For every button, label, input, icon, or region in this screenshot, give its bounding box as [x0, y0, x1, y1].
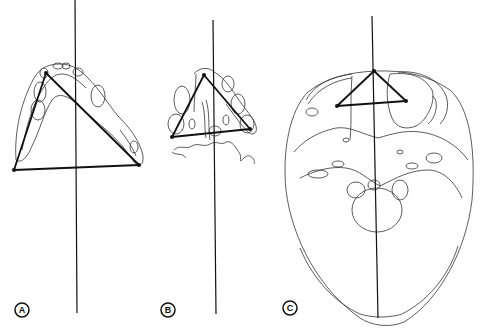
panel-c-orbit-right [387, 74, 433, 128]
panel-a-midline [75, 0, 77, 313]
panel-c-triangle [337, 71, 406, 106]
panel-c-foramen-magnum [352, 188, 402, 232]
panel-c: C [283, 16, 473, 325]
panel-a-label: A [19, 305, 26, 315]
panel-c-skull-outer [285, 71, 473, 326]
figure-canvas: A B [0, 0, 482, 336]
panel-c-skull-inner [300, 246, 458, 317]
panel-c-midline [372, 16, 378, 318]
panel-a: A [12, 0, 143, 317]
panel-b-label: B [165, 305, 172, 315]
panel-b-midline [213, 20, 216, 314]
panel-c-label: C [287, 303, 294, 313]
panel-b: B [161, 20, 256, 317]
